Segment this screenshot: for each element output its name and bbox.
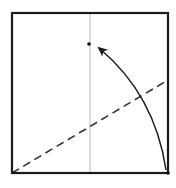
source-corner-dot <box>166 171 170 175</box>
origami-diagram <box>0 0 176 188</box>
fold-arrow <box>99 48 166 170</box>
target-point-dot <box>87 42 91 46</box>
